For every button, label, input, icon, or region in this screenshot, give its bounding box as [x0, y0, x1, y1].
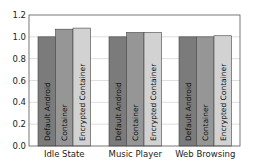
- y-tick-label: 0.4: [12, 97, 26, 107]
- bars: Default AndroidContainerEncrypted Contai…: [38, 28, 232, 146]
- bar-series-label: Encrypted Container: [219, 63, 228, 141]
- bar-series-label: Container: [131, 103, 140, 141]
- x-category-label: Idle State: [44, 149, 85, 159]
- bar-series-label: Encrypted Container: [78, 63, 87, 141]
- y-tick-label: 1.2: [12, 10, 26, 20]
- bar-series-label: Container: [201, 103, 210, 141]
- bar-series-label: Default Android: [184, 82, 193, 141]
- x-axis-categories: Idle StateMusic PlayerWeb Browsing: [44, 149, 235, 159]
- y-tick-label: 0.2: [12, 119, 26, 129]
- bar-series-label: Default Android: [114, 82, 123, 141]
- y-tick-label: 0.6: [12, 76, 26, 86]
- bar-series-label: Default Android: [43, 82, 52, 141]
- y-tick-label: 0.8: [12, 54, 26, 64]
- bar-series-label: Encrypted Container: [149, 63, 158, 141]
- x-category-label: Music Player: [109, 149, 163, 159]
- y-tick-label: 0.0: [12, 141, 26, 151]
- bar-chart: Default AndroidContainerEncrypted Contai…: [0, 0, 254, 166]
- y-axis-ticks: 0.00.20.40.60.81.01.2: [12, 10, 26, 151]
- y-tick-label: 1.0: [12, 32, 26, 42]
- bar-series-label: Container: [60, 103, 69, 141]
- x-category-label: Web Browsing: [175, 149, 235, 159]
